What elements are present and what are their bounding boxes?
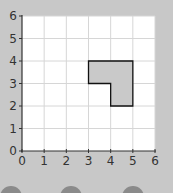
x-tick-label: 4 [107,154,115,168]
x-tick-label: 0 [18,154,26,168]
x-tick-label: 2 [63,154,71,168]
y-tick-label: 1 [9,122,17,136]
y-tick-label: 4 [9,54,17,68]
x-tick-label: 6 [151,154,159,168]
coordinate-grid-chart: 01234560123456 [0,0,173,193]
y-tick-label: 0 [9,144,17,158]
y-tick-label: 2 [9,99,17,113]
x-tick-label: 5 [129,154,137,168]
x-tick-label: 3 [85,154,93,168]
y-tick-label: 3 [9,77,17,91]
x-tick-label: 1 [40,154,48,168]
y-tick-label: 5 [9,32,17,46]
y-tick-label: 6 [9,9,17,23]
